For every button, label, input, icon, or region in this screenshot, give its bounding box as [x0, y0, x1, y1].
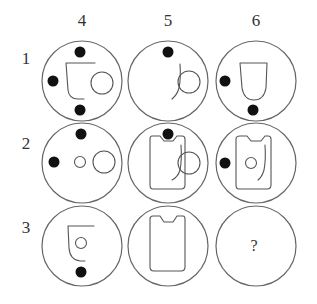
tumbler-outline [240, 63, 267, 100]
dot-top [76, 129, 87, 140]
dot-bottom [248, 105, 259, 116]
column-label-4: 4 [78, 11, 87, 30]
large-circle [178, 71, 200, 93]
puzzle-grid: 4 5 6 1 2 3 [0, 0, 317, 304]
dot-left [49, 157, 60, 168]
cell-2-4 [42, 123, 122, 203]
hook-curve [172, 64, 180, 99]
cell-1-4 [42, 41, 122, 121]
dot-bottom [76, 267, 87, 278]
cell-1-5 [128, 41, 208, 121]
question-mark: ? [250, 237, 257, 254]
large-circle [91, 72, 113, 94]
cell-border [128, 206, 208, 286]
row-label-1: 1 [22, 49, 31, 68]
small-circle [76, 238, 87, 249]
hook-curve [258, 145, 265, 180]
cell-1-6 [216, 41, 296, 121]
dot-top [163, 47, 174, 58]
column-label-5: 5 [164, 11, 173, 30]
dot-top [75, 47, 86, 58]
column-label-6: 6 [252, 11, 261, 30]
dot-top [163, 129, 174, 140]
row-label-3: 3 [22, 218, 31, 237]
small-circle [246, 158, 257, 169]
notched-rectangle [236, 136, 271, 189]
notched-rectangle [150, 216, 185, 271]
row-label-2: 2 [22, 134, 31, 153]
hook-curve [172, 145, 181, 180]
cup-outline [68, 226, 94, 261]
dot-left [220, 158, 231, 169]
cell-2-6 [216, 123, 296, 203]
dot-left [48, 76, 59, 87]
cell-3-4 [42, 206, 122, 286]
cell-3-6: ? [216, 206, 296, 286]
dot-bottom [75, 105, 86, 116]
cell-3-5 [128, 206, 208, 286]
cell-2-5 [128, 123, 208, 203]
small-circle [75, 157, 86, 168]
large-circle [93, 151, 115, 173]
notched-rectangle [150, 136, 185, 189]
dot-left [220, 76, 231, 87]
